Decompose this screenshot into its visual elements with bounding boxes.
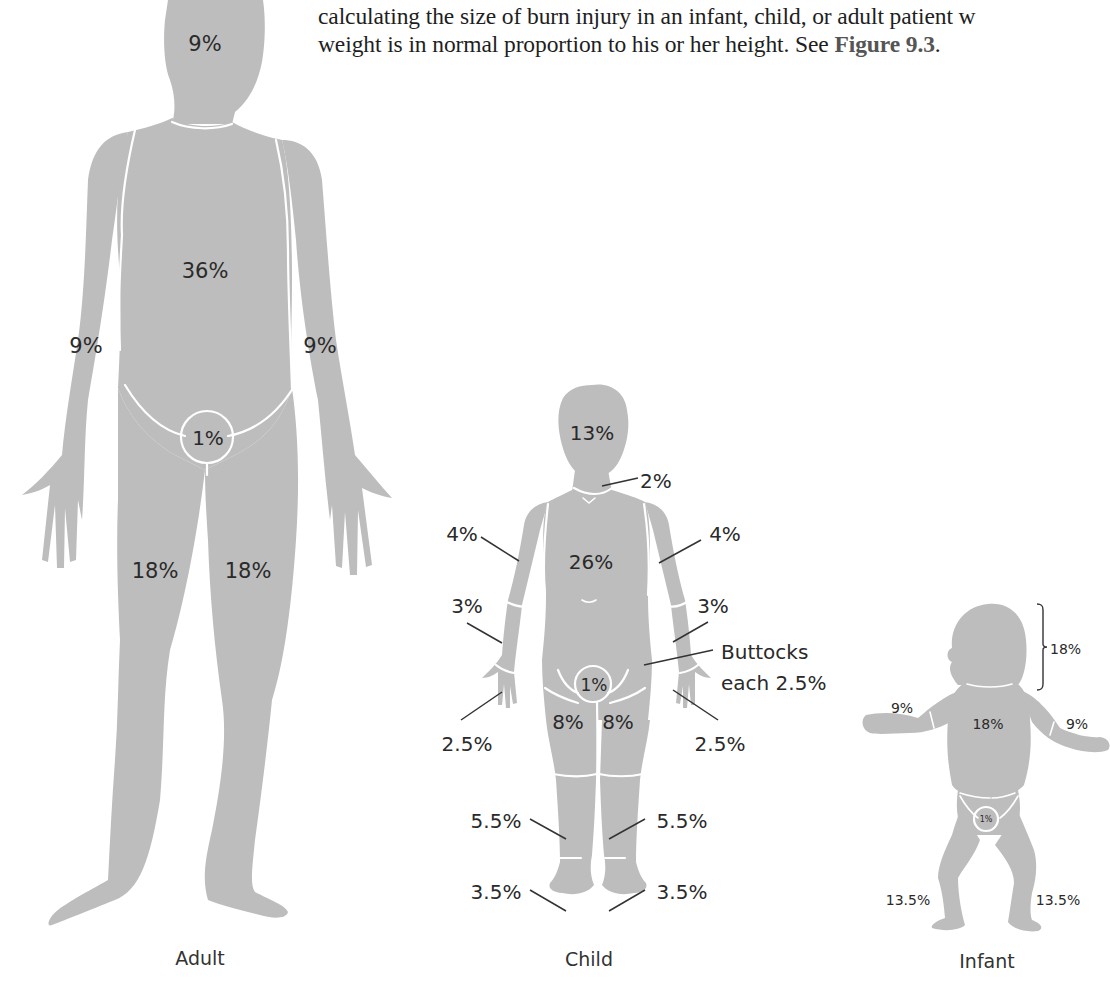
child-right-lower-leg-percent: 5.5% xyxy=(657,809,708,833)
infant-bracket xyxy=(1037,604,1047,690)
adult-torso-percent: 36% xyxy=(182,259,229,283)
child-left-lower-leg-percent: 5.5% xyxy=(471,809,522,833)
adult-left-leg-percent: 18% xyxy=(132,559,179,583)
child-left-thigh-percent: 8% xyxy=(552,710,584,734)
infant-caption: Infant xyxy=(959,950,1014,972)
child-figure: 13% 2% 26% 4% 4% 3% 3% Buttocks each 2.5… xyxy=(442,384,827,970)
infant-head-percent: 18% xyxy=(1050,641,1081,657)
adult-right-leg-percent: 18% xyxy=(225,559,272,583)
adult-caption: Adult xyxy=(175,947,225,969)
infant-right-arm-percent: 9% xyxy=(1066,716,1088,732)
child-right-hand-percent: 2.5% xyxy=(695,732,746,756)
infant-right-leg-percent: 13.5% xyxy=(1036,892,1080,908)
infant-figure: 18% 18% 9% 9% 1% 13.5% 13.5% Infant xyxy=(863,604,1110,972)
child-right-upper-arm-percent: 4% xyxy=(709,522,741,546)
infant-left-arm-percent: 9% xyxy=(891,700,913,716)
rule-of-nines-figure: 9% 36% 9% 9% 1% 18% 18% Adult xyxy=(0,0,1110,981)
adult-genitals-percent: 1% xyxy=(192,426,224,450)
child-left-foot-percent: 3.5% xyxy=(471,880,522,904)
child-left-upper-arm-percent: 4% xyxy=(446,522,478,546)
child-neck-percent: 2% xyxy=(640,469,672,493)
child-head-percent: 13% xyxy=(570,421,614,445)
infant-torso-percent: 18% xyxy=(972,716,1003,732)
child-right-thigh-percent: 8% xyxy=(602,710,634,734)
child-torso-percent: 26% xyxy=(569,550,613,574)
leader-right-hand xyxy=(673,690,718,720)
adult-left-arm-percent: 9% xyxy=(69,334,102,358)
child-left-hand-percent: 2.5% xyxy=(442,732,493,756)
leader-left-hand xyxy=(461,692,502,720)
child-right-forearm-percent: 3% xyxy=(697,594,729,618)
head-bracket-icon xyxy=(1037,604,1047,690)
infant-left-leg-percent: 13.5% xyxy=(886,892,930,908)
child-genitals-percent: 1% xyxy=(581,675,608,695)
child-buttocks-label: Buttocks xyxy=(721,640,808,664)
adult-head-percent: 9% xyxy=(188,32,221,56)
infant-genitals-percent: 1% xyxy=(980,815,993,824)
leader-left-forearm xyxy=(467,623,502,643)
child-left-forearm-percent: 3% xyxy=(451,594,483,618)
leader-left-upper-arm xyxy=(481,537,519,561)
child-buttocks-percent: each 2.5% xyxy=(721,671,826,695)
adult-right-arm-percent: 9% xyxy=(303,334,336,358)
child-caption: Child xyxy=(565,948,613,970)
adult-figure: 9% 36% 9% 9% 1% 18% 18% Adult xyxy=(22,0,392,969)
leader-left-foot xyxy=(530,890,566,911)
child-right-foot-percent: 3.5% xyxy=(657,880,708,904)
